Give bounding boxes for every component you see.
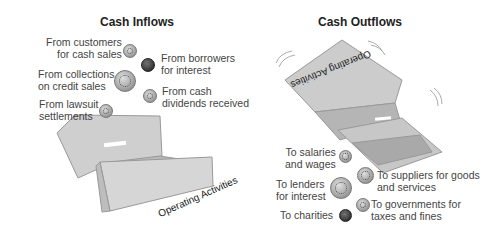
inflow-label-borrowers: From borrowers for interest (161, 52, 235, 76)
coin-icon (114, 70, 136, 92)
coin-icon (356, 198, 370, 212)
inflow-label-collections: From collections on credit sales (38, 68, 114, 92)
coin-icon (339, 150, 352, 163)
inflow-label-customers: From customers for cash sales (46, 36, 122, 60)
coin-icon (143, 89, 157, 103)
outflow-label-charities: To charities (280, 209, 333, 221)
outflow-label-governments: To governments for taxes and fines (371, 198, 461, 222)
outflow-label-salaries: To salaries and wages (285, 146, 336, 170)
outflows-title: Cash Outflows (318, 15, 402, 29)
coin-icon (141, 58, 155, 72)
coin-icon (123, 44, 137, 58)
outflow-label-lenders: To lenders for interest (276, 178, 326, 202)
inflows-title: Cash Inflows (100, 15, 174, 29)
inflow-label-lawsuit: From lawsuit settlements (39, 98, 99, 122)
inflow-box: Operating Activities (57, 115, 239, 219)
coin-icon (339, 209, 352, 222)
inflow-label-dividends: From cash dividends received (162, 85, 249, 109)
coin-icon (330, 177, 352, 199)
coin-icon (99, 104, 113, 118)
outflow-label-suppliers: To suppliers for goods and services (377, 169, 480, 193)
coin-icon (357, 167, 374, 184)
